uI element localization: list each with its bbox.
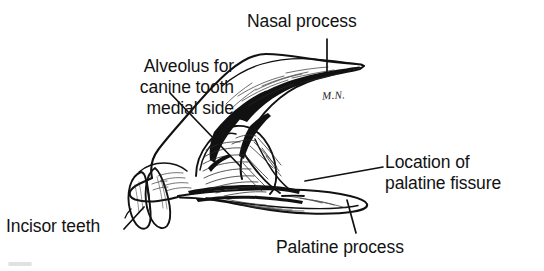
label-alveolus-for-canine-tooth-medial-side: Alveolus for canine tooth medial side bbox=[62, 56, 234, 119]
leader-palatine-process bbox=[347, 200, 356, 233]
label-location-of-palatine-fissure: Location of palatine fissure bbox=[385, 152, 501, 194]
label-alveolus-line-2: canine tooth bbox=[140, 77, 234, 97]
alveolar-margin bbox=[139, 163, 187, 172]
figure-canvas: Nasal process Alveolus for canine tooth … bbox=[0, 0, 544, 271]
label-alveolus-line-3: medial side bbox=[147, 98, 234, 118]
label-alveolus-line-1: Alveolus for bbox=[144, 56, 234, 76]
leader-incisor-teeth bbox=[124, 207, 144, 229]
palatine-shelf-outline bbox=[178, 189, 367, 213]
label-nasal-process: Nasal process bbox=[247, 11, 357, 32]
leader-location-palatine-fissure bbox=[305, 167, 383, 181]
label-incisor-teeth: Incisor teeth bbox=[6, 216, 100, 237]
label-fissure-line-1: Location of bbox=[385, 152, 470, 172]
label-fissure-line-2: palatine fissure bbox=[385, 173, 501, 193]
canine-alveolus-eminence bbox=[196, 126, 276, 194]
foramen-mark bbox=[240, 116, 247, 120]
artist-signature: M.N. bbox=[322, 88, 346, 101]
page-smudge bbox=[8, 262, 32, 266]
palate-junction-dark-lower bbox=[196, 196, 303, 204]
incisive-region-hatching bbox=[152, 173, 191, 191]
label-palatine-process: Palatine process bbox=[276, 237, 404, 258]
